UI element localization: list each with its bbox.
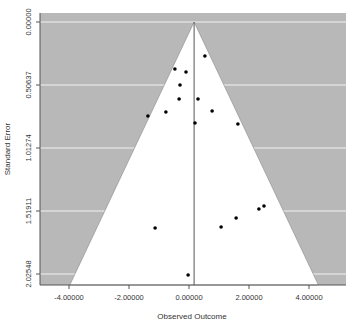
y-tick-label: 0.50637 xyxy=(24,71,33,98)
data-point xyxy=(257,207,261,211)
y-tick-label: 0.00000 xyxy=(24,8,33,35)
y-tick-label: 1.01274 xyxy=(24,134,33,161)
data-point xyxy=(234,216,238,220)
x-axis-ticks: -4.00000-2.000000.000002.000004.00000 xyxy=(54,285,322,302)
data-point xyxy=(196,97,200,101)
data-point xyxy=(184,70,188,74)
x-tick-label: 0.00000 xyxy=(175,293,202,302)
data-point xyxy=(178,83,182,87)
x-axis-title: Observed Outcome xyxy=(157,312,227,321)
x-tick-label: 2.00000 xyxy=(235,293,262,302)
data-point xyxy=(153,226,157,230)
data-point xyxy=(193,121,197,125)
x-tick-label: 4.00000 xyxy=(295,293,322,302)
data-point xyxy=(177,97,181,101)
funnel-plot: -4.00000-2.000000.000002.000004.00000 0.… xyxy=(0,0,352,326)
y-tick-label: 2.02548 xyxy=(24,260,33,287)
data-point xyxy=(210,109,214,113)
x-tick-label: -2.00000 xyxy=(114,293,144,302)
data-point xyxy=(219,225,223,229)
data-point xyxy=(146,114,150,118)
y-axis-title: Standard Error xyxy=(3,122,12,175)
data-point xyxy=(262,204,266,208)
data-point xyxy=(173,67,177,71)
data-point xyxy=(203,54,207,58)
y-axis-ticks: 0.000000.506371.012741.519112.02548 xyxy=(24,8,40,287)
data-point xyxy=(164,110,168,114)
y-tick-label: 1.51911 xyxy=(24,198,33,225)
data-point xyxy=(236,122,240,126)
data-point xyxy=(186,273,190,277)
x-tick-label: -4.00000 xyxy=(54,293,84,302)
